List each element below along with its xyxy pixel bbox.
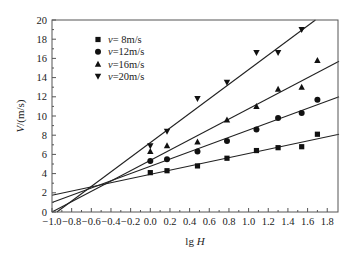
triangle-down-legend-icon — [95, 74, 101, 80]
triangle-up-legend-icon — [95, 61, 101, 67]
data-point — [194, 139, 200, 145]
x-tick-label: 0.6 — [203, 216, 216, 227]
y-tick-label: 6 — [42, 149, 47, 160]
y-tick-label: 2 — [42, 187, 47, 198]
data-point — [147, 158, 153, 164]
data-point — [147, 143, 153, 149]
x-axis: −1.0−0.8−0.6−0.4−0.20.00.20.40.60.81.01.… — [42, 208, 333, 227]
x-tick-label: −0.8 — [62, 216, 81, 227]
data-point — [314, 57, 320, 63]
x-tick-label: −1.0 — [42, 216, 61, 227]
x-axis-title: lg H — [185, 235, 205, 247]
data-point — [195, 163, 200, 168]
fit-lines — [52, 20, 339, 212]
data-point — [275, 145, 280, 150]
x-axis-title-var: H — [196, 235, 206, 247]
y-tick-label: 12 — [37, 91, 48, 102]
data-point — [194, 149, 200, 155]
circle-legend-icon — [95, 49, 101, 55]
square-legend-icon — [95, 37, 100, 42]
x-tick-label: 1.2 — [262, 216, 275, 227]
x-tick-label: 0.8 — [222, 216, 235, 227]
y-tick-label: 0 — [42, 207, 47, 218]
fit-line — [52, 61, 339, 212]
y-tick-label: 10 — [37, 111, 48, 122]
x-tick-label: −0.4 — [101, 216, 121, 227]
data-point — [254, 148, 259, 153]
data-point — [164, 168, 169, 173]
data-point — [224, 80, 230, 86]
y-tick-label: 18 — [37, 34, 48, 45]
data-point — [224, 138, 230, 144]
x-tick-label: 0.4 — [183, 216, 197, 227]
data-point — [275, 86, 281, 92]
data-point — [299, 144, 304, 149]
y-tick-label: 20 — [37, 15, 48, 26]
x-tick-label: −0.2 — [121, 216, 140, 227]
x-tick-label: 1.8 — [321, 216, 334, 227]
data-point — [275, 50, 281, 56]
legend-label: v=16m/s — [108, 59, 144, 70]
chart: −1.0−0.8−0.6−0.4−0.20.00.20.40.60.81.01.… — [0, 0, 355, 254]
x-tick-label: 0.0 — [144, 216, 157, 227]
y-tick-label: 8 — [42, 130, 47, 141]
x-tick-label: 1.6 — [301, 216, 314, 227]
y-axis: 02468101214161820 — [37, 15, 57, 218]
x-tick-label: 0.2 — [163, 216, 176, 227]
legend-label: v= 8m/s — [108, 34, 142, 45]
data-point — [164, 156, 170, 162]
data-point — [275, 115, 281, 121]
y-tick-label: 4 — [42, 168, 48, 179]
data-markers — [147, 27, 321, 175]
data-point — [253, 50, 259, 56]
legend-label: v=20m/s — [108, 71, 144, 82]
x-tick-label: 1.4 — [281, 216, 295, 227]
y-axis-title: V/(m/s) — [14, 99, 27, 132]
data-point — [315, 132, 320, 137]
data-point — [298, 84, 304, 90]
legend-label: v=12m/s — [108, 46, 144, 57]
x-tick-label: 1.0 — [242, 216, 255, 227]
y-axis-title-unit: /(m/s) — [14, 99, 27, 126]
data-point — [224, 156, 229, 161]
data-point — [164, 142, 170, 148]
data-point — [194, 96, 200, 102]
legend: v= 8m/sv=12m/sv=16m/sv=20m/s — [95, 34, 144, 82]
y-tick-label: 16 — [37, 53, 48, 64]
data-point — [299, 110, 305, 116]
x-tick-label: −0.6 — [82, 216, 101, 227]
data-point — [253, 126, 259, 132]
x-axis-title-lg: lg — [185, 235, 196, 247]
data-point — [314, 97, 320, 103]
data-point — [148, 170, 153, 175]
y-tick-label: 14 — [37, 72, 48, 83]
